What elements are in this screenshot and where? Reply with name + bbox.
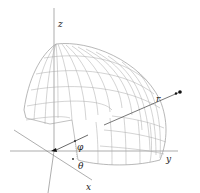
z-axis-label: z	[57, 19, 63, 29]
theta-marker-icon	[72, 158, 74, 160]
x-axis	[14, 130, 92, 180]
radius-endpoint-tail-icon	[175, 92, 177, 94]
x-axis-label: x	[86, 182, 91, 192]
y-axis-label: y	[165, 154, 172, 164]
radius-label: r	[156, 94, 161, 104]
phi-label: φ	[77, 142, 84, 152]
radius-endpoint-icon	[178, 90, 182, 94]
sphere-mesh	[24, 43, 166, 165]
spherical-coordinates-diagram: z y x r φ θ	[0, 0, 200, 193]
z-axis-lower	[48, 151, 54, 193]
phi-marker-icon	[74, 140, 76, 142]
theta-label: θ	[78, 161, 84, 171]
radius-vector	[104, 90, 182, 125]
